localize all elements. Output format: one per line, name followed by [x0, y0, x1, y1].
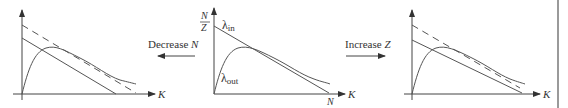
- y-intercept-denominator: Z: [201, 22, 207, 33]
- lambda-in-original-dashed: [22, 25, 136, 93]
- lambda-out-curve: [214, 47, 330, 94]
- panel-left: K: [13, 10, 166, 100]
- lambda-in-decreased: [22, 38, 116, 94]
- panel-middle: K N Z λin λout N: [200, 8, 356, 107]
- transition-decrease-n: Decrease N: [148, 38, 199, 56]
- diagram-canvas: K Decrease N K N Z λin λout N: [0, 0, 568, 108]
- increase-z-label: Increase Z: [345, 38, 391, 50]
- x-axis-label: K: [347, 88, 356, 100]
- divider-bar: [557, 0, 559, 108]
- x-axis-label: K: [542, 88, 551, 100]
- x-intercept-label: N: [326, 96, 335, 107]
- x-axis-label: K: [157, 88, 166, 100]
- lambda-in-label: λin: [222, 18, 235, 33]
- lambda-out-curve: [22, 47, 136, 94]
- lambda-out-label: λout: [221, 71, 239, 86]
- lambda-in-original-dashed: [412, 25, 520, 88]
- lambda-out-curve: [412, 47, 525, 94]
- transition-increase-z: Increase Z: [345, 38, 391, 56]
- y-intercept-numerator: N: [200, 10, 209, 21]
- lambda-in-increased: [412, 40, 522, 93]
- decrease-n-label: Decrease N: [148, 38, 199, 50]
- panel-right: K: [404, 10, 551, 100]
